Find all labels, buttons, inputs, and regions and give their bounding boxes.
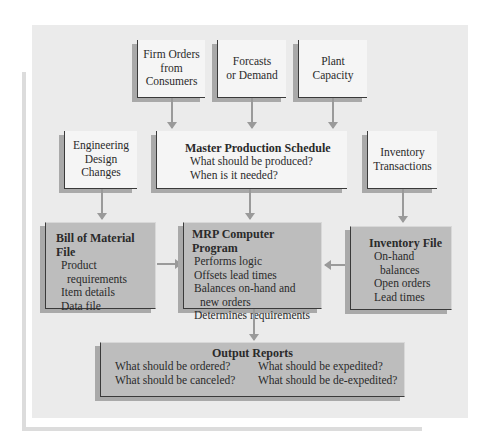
box-line: Transactions <box>373 160 431 174</box>
arrow-mps-to-mrp-icon <box>249 189 251 219</box>
arrow-capacity-to-mps-icon <box>332 98 334 128</box>
box-line: or Demand <box>226 69 277 83</box>
mrp-item: Determines requirements <box>194 309 321 323</box>
panel-shadow-left <box>22 72 26 431</box>
box-line: Changes <box>81 166 121 180</box>
box-line: Design <box>85 153 118 167</box>
output-reports-box: Output Reports What should be ordered? W… <box>100 342 405 397</box>
inventory-file-item: Lead times <box>374 291 451 305</box>
box-line: Firm Orders <box>143 48 200 62</box>
output-reports-title: Output Reports <box>115 346 404 360</box>
engineering-changes-box: Engineering Design Changes <box>64 131 137 189</box>
box-line: Consumers <box>146 75 198 89</box>
inventory-file-box: Inventory File On-hand balances Open ord… <box>350 226 452 310</box>
panel-shadow-bottom <box>22 427 422 431</box>
output-report-item: What should be canceled? <box>115 374 242 388</box>
bom-item: requirements <box>61 273 155 287</box>
mps-item: What should be produced? <box>190 155 347 169</box>
arrow-inventory-file-to-mrp-icon <box>325 264 349 266</box>
inventory-file-title: Inventory File <box>369 236 451 250</box>
mrp-item: Balances on-hand and <box>194 282 321 296</box>
firm-orders-box: Firm Orders from Consumers <box>137 40 205 98</box>
arrow-forecasts-to-mps-icon <box>251 98 253 128</box>
box-line: Capacity <box>313 69 354 83</box>
mrp-item: new orders <box>194 296 321 310</box>
box-line: from <box>160 62 182 76</box>
arrow-mrp-to-output-icon <box>253 309 255 340</box>
mps-item: When is it needed? <box>190 169 347 183</box>
bom-item: Product <box>61 259 155 273</box>
output-report-item: What should be expedited? <box>258 360 404 374</box>
forecasts-box: Forcasts or Demand <box>217 40 286 98</box>
inventory-file-item: Open orders <box>374 277 451 291</box>
mrp-title: MRP Computer Program <box>192 227 321 255</box>
box-line: Plant <box>321 55 345 69</box>
arrow-transactions-to-inventory-file-icon <box>402 189 404 222</box>
bom-title: Bill of Material File <box>56 231 155 259</box>
bom-item: Item details <box>61 286 155 300</box>
output-report-item: What should be ordered? <box>115 360 242 374</box>
bom-item: Data file <box>61 300 155 314</box>
master-production-schedule-box: Master Production Schedule What should b… <box>156 131 347 189</box>
inventory-file-item: balances <box>374 264 451 278</box>
box-line: Forcasts <box>233 55 271 69</box>
inventory-transactions-box: Inventory Transactions <box>367 131 437 189</box>
arrow-bom-to-mrp-icon <box>157 263 181 265</box>
plant-capacity-box: Plant Capacity <box>298 40 367 98</box>
arrow-engineering-to-bom-icon <box>101 189 103 219</box>
output-report-item: What should be de-expedited? <box>258 374 404 388</box>
mrp-item: Performs logic <box>194 255 321 269</box>
mps-title: Master Production Schedule <box>185 141 347 155</box>
inventory-file-item: On-hand <box>374 250 451 264</box>
box-line: Engineering <box>73 139 129 153</box>
mrp-computer-program-box: MRP Computer Program Performs logic Offs… <box>183 222 322 309</box>
bill-of-material-file-box: Bill of Material File Product requiremen… <box>45 222 156 309</box>
mrp-item: Offsets lead times <box>194 269 321 283</box>
arrow-firm-orders-to-mps-icon <box>171 98 173 128</box>
box-line: Inventory <box>380 146 425 160</box>
